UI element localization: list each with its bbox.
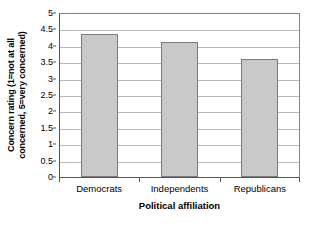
y-tick-mark xyxy=(53,160,56,161)
x-tick-mark xyxy=(59,178,60,182)
plot-area xyxy=(59,13,300,178)
bar-series xyxy=(60,14,299,177)
y-tick-mark xyxy=(53,45,56,46)
y-tick-mark xyxy=(53,144,56,145)
x-category-label: Republicans xyxy=(220,183,300,195)
bar-independents[interactable] xyxy=(161,42,198,177)
bar-slot xyxy=(60,14,140,177)
bar-republicans[interactable] xyxy=(241,59,278,177)
y-axis-title-line1: Concern rating (1=not at all xyxy=(6,38,16,152)
x-tick-mark xyxy=(299,178,300,182)
y-axis-title-line2: concerned, 5=very concerned) xyxy=(17,31,28,159)
y-tick-mark xyxy=(53,13,56,14)
y-tick-label: 4.5 xyxy=(40,25,53,34)
y-tick-mark xyxy=(53,78,56,79)
x-tick-mark xyxy=(139,178,140,182)
y-tick-label: 0.5 xyxy=(40,156,53,165)
y-axis-ticks: 00.511.522.533.544.55 xyxy=(30,0,56,190)
x-axis-title: Political affiliation xyxy=(59,200,300,212)
bar-chart-figure: Concern rating (1=not at all concerned, … xyxy=(0,0,309,233)
bar-slot xyxy=(140,14,220,177)
x-category-label: Independents xyxy=(139,183,219,195)
y-tick-mark xyxy=(53,177,56,178)
x-category-label: Democrats xyxy=(59,183,139,195)
y-tick-mark xyxy=(53,95,56,96)
y-tick-mark xyxy=(53,127,56,128)
bar-slot xyxy=(219,14,299,177)
x-axis-category-labels: DemocratsIndependentsRepublicans xyxy=(59,183,300,195)
y-tick-label: 3.5 xyxy=(40,58,53,67)
y-tick-label: 2.5 xyxy=(40,91,53,100)
y-tick-mark xyxy=(53,29,56,30)
y-tick-mark xyxy=(53,111,56,112)
y-tick-label: 1.5 xyxy=(40,123,53,132)
bar-democrats[interactable] xyxy=(81,34,118,177)
y-axis-title: Concern rating (1=not at all concerned, … xyxy=(0,0,34,190)
y-tick-mark xyxy=(53,62,56,63)
x-tick-mark xyxy=(220,178,221,182)
